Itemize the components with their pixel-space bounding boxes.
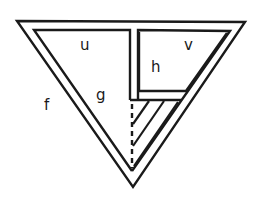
- label-f: f: [44, 98, 49, 113]
- label-g: g: [96, 88, 106, 103]
- triangle-diagram: u v h g f: [0, 0, 259, 200]
- label-h: h: [151, 60, 161, 75]
- diagram-svg: [0, 0, 259, 200]
- hatching: [133, 101, 178, 166]
- label-v: v: [184, 38, 193, 53]
- label-u: u: [80, 38, 90, 53]
